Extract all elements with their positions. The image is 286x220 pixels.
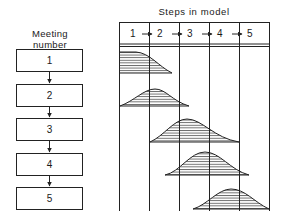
diagram-graphics [0,0,286,220]
step-label-2: 2 [157,28,163,39]
step-label-3: 3 [187,28,193,39]
activity-curve-meeting-4 [165,152,249,175]
activity-curve-meeting-5 [193,189,269,209]
steps-grid [120,22,270,211]
activity-curve-meeting-2 [120,89,189,106]
activity-curve-meeting-1 [120,52,173,73]
step-label-5: 5 [247,28,253,39]
step-label-4: 4 [217,28,223,39]
activity-curve-meeting-3 [150,119,239,142]
step-label-1: 1 [130,28,136,39]
